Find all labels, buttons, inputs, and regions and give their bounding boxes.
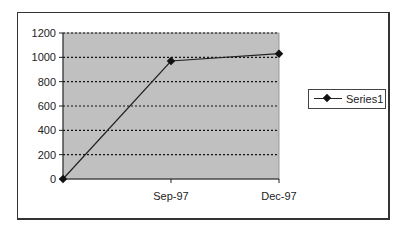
- y-tick-label: 1200: [32, 27, 56, 39]
- y-tick-label: 0: [50, 173, 56, 185]
- legend: Series1: [308, 89, 386, 109]
- x-tick-label: Sep-97: [153, 190, 188, 202]
- line-chart: 020040060080010001200Sep-97Dec-97: [0, 0, 404, 232]
- series1-legend-marker-icon: [314, 94, 342, 104]
- y-tick-label: 600: [38, 100, 56, 112]
- legend-label-series1: Series1: [346, 93, 383, 105]
- y-tick-label: 200: [38, 149, 56, 161]
- y-tick-label: 800: [38, 76, 56, 88]
- y-tick-label: 400: [38, 124, 56, 136]
- x-tick-label: Dec-97: [261, 190, 296, 202]
- y-tick-label: 1000: [32, 51, 56, 63]
